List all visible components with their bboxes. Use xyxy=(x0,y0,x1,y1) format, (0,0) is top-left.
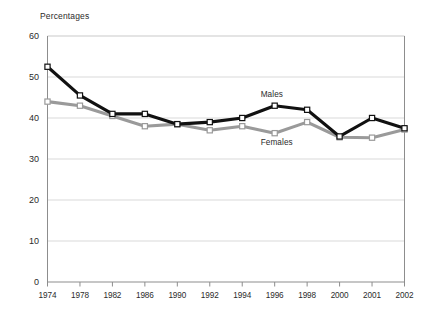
marker-females-1998 xyxy=(305,120,310,125)
y-tick-label-30: 30 xyxy=(15,154,39,164)
marker-females-1996 xyxy=(272,131,277,136)
x-tick-label-1996: 1996 xyxy=(266,291,284,300)
marker-females-1994 xyxy=(240,124,245,129)
marker-males-1990 xyxy=(175,122,180,127)
y-tick-label-50: 50 xyxy=(15,72,39,82)
marker-males-1996 xyxy=(272,103,277,108)
x-tick-marks xyxy=(48,282,405,287)
y-tick-label-40: 40 xyxy=(15,113,39,123)
plot-canvas xyxy=(0,0,421,314)
x-tick-label-1978: 1978 xyxy=(71,291,89,300)
x-tick-label-2000: 2000 xyxy=(331,291,349,300)
y-tick-label-60: 60 xyxy=(15,31,39,41)
marker-males-1982 xyxy=(110,111,115,116)
series-label-males: Males xyxy=(261,90,283,99)
x-tick-label-1998: 1998 xyxy=(298,291,316,300)
x-tick-label-1986: 1986 xyxy=(136,291,154,300)
marker-males-1974 xyxy=(45,64,50,69)
y-tick-label-20: 20 xyxy=(15,195,39,205)
marker-females-1974 xyxy=(45,99,50,104)
x-tick-label-2002: 2002 xyxy=(396,291,414,300)
marker-males-1994 xyxy=(240,115,245,120)
x-tick-label-1974: 1974 xyxy=(39,291,57,300)
marker-males-1998 xyxy=(305,107,310,112)
marker-males-1992 xyxy=(207,120,212,125)
marker-males-2001 xyxy=(369,115,374,120)
x-tick-label-1992: 1992 xyxy=(201,291,219,300)
marker-males-2002 xyxy=(402,126,407,131)
marker-females-1992 xyxy=(207,128,212,133)
series-layer xyxy=(45,64,407,140)
y-tick-label-0: 0 xyxy=(15,277,39,287)
marker-females-1978 xyxy=(77,103,82,108)
x-tick-label-1994: 1994 xyxy=(233,291,251,300)
percentages-line-chart: Percentages 0102030405060 19741978198219… xyxy=(0,0,421,314)
marker-females-1986 xyxy=(142,124,147,129)
marker-females-2001 xyxy=(369,135,374,140)
y-tick-label-10: 10 xyxy=(15,236,39,246)
x-tick-label-2001: 2001 xyxy=(363,291,381,300)
marker-males-1978 xyxy=(77,93,82,98)
marker-males-1986 xyxy=(142,111,147,116)
x-tick-label-1982: 1982 xyxy=(103,291,121,300)
series-label-females: Females xyxy=(261,138,293,147)
marker-males-2000 xyxy=(337,134,342,139)
x-tick-label-1990: 1990 xyxy=(168,291,186,300)
